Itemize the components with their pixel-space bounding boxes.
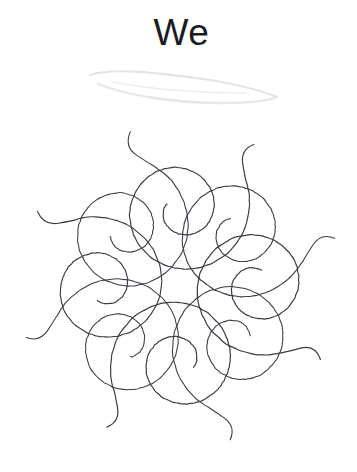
swoosh-decoration xyxy=(0,62,357,114)
page-canvas: We xyxy=(0,0,357,472)
spiral-petal xyxy=(172,287,283,440)
spiral-rosette-drawing xyxy=(0,118,357,458)
spiral-petal xyxy=(26,279,178,390)
spiral-petal xyxy=(37,211,161,337)
spiral-petal xyxy=(78,132,189,286)
faint-leaf-swoosh-icon xyxy=(0,62,357,114)
spiral-petal xyxy=(107,302,231,427)
spiral-petal xyxy=(129,145,253,270)
spiral-petal xyxy=(197,235,320,360)
page-title: We xyxy=(148,14,210,51)
rosette-stroke-group xyxy=(26,132,334,440)
spiral-rosette-figure xyxy=(0,118,357,458)
title-area: We xyxy=(0,14,357,51)
spiral-petal xyxy=(182,186,334,297)
